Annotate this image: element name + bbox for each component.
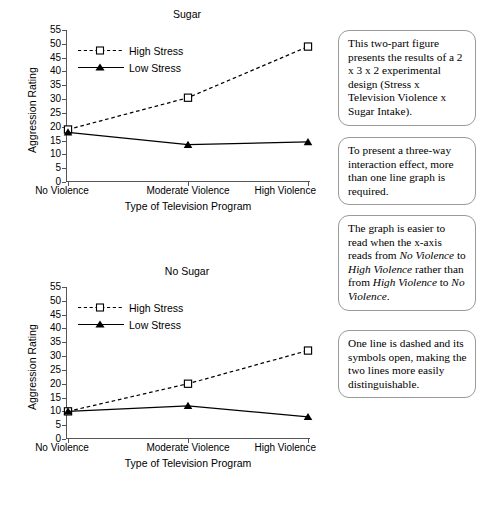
callout-distinguish: One line is dashed and its symbols open,… <box>338 330 476 398</box>
emphasis-text: High Violence <box>373 276 437 288</box>
chart-title-sugar: Sugar <box>22 8 352 20</box>
legend-sugar: High Stress Low Stress <box>78 42 183 76</box>
x-tick-label: High Violence <box>254 185 316 196</box>
legend-row-high-stress: High Stress <box>78 299 183 316</box>
legend-no-sugar: High Stress Low Stress <box>78 299 183 333</box>
y-tick-mark <box>62 439 66 440</box>
legend-swatch-solid-filled-triangle <box>78 62 124 73</box>
emphasis-text: High Violence <box>348 263 412 275</box>
plain-text: to <box>454 249 466 261</box>
chart-no-sugar: No Sugar Aggression Rating 0510152025303… <box>0 265 330 517</box>
plain-text: to <box>437 276 451 288</box>
legend-swatch-solid-filled-triangle <box>78 319 124 330</box>
callout-design: This two-part figure presents the result… <box>338 30 476 126</box>
legend-row-low-stress: Low Stress <box>78 59 183 76</box>
callout-threeway: To present a three-way interaction effec… <box>338 137 476 205</box>
chart-title-no-sugar: No Sugar <box>22 265 352 277</box>
data-point-open-square <box>304 347 311 354</box>
legend-label-high-stress: High Stress <box>129 45 183 57</box>
y-tick-mark <box>62 182 66 183</box>
plain-text: . <box>387 290 390 302</box>
x-tick-label: No Violence <box>35 185 89 196</box>
data-point-open-square <box>304 43 311 50</box>
callout-axis-order: The graph is easier to read when the x-a… <box>338 215 476 311</box>
legend-row-high-stress: High Stress <box>78 42 183 59</box>
x-tick-label: Moderate Violence <box>146 185 229 196</box>
legend-swatch-dashed-open-square <box>78 45 124 56</box>
legend-label-low-stress: Low Stress <box>129 62 181 74</box>
data-point-open-square <box>184 94 191 101</box>
data-point-open-square <box>184 380 191 387</box>
legend-swatch-dashed-open-square <box>78 302 124 313</box>
chart-sugar: Sugar Aggression Rating 0510152025303540… <box>0 8 330 258</box>
x-tick-label: No Violence <box>35 442 89 453</box>
x-tick-label: High Violence <box>254 442 316 453</box>
legend-label-low-stress: Low Stress <box>129 319 181 331</box>
legend-label-high-stress: High Stress <box>129 302 183 314</box>
x-axis-title-sugar: Type of Television Program <box>66 200 310 212</box>
x-tick-label: Moderate Violence <box>146 442 229 453</box>
emphasis-text: No Violence <box>399 249 454 261</box>
legend-row-low-stress: Low Stress <box>78 316 183 333</box>
x-axis-title-no-sugar: Type of Television Program <box>66 457 310 469</box>
